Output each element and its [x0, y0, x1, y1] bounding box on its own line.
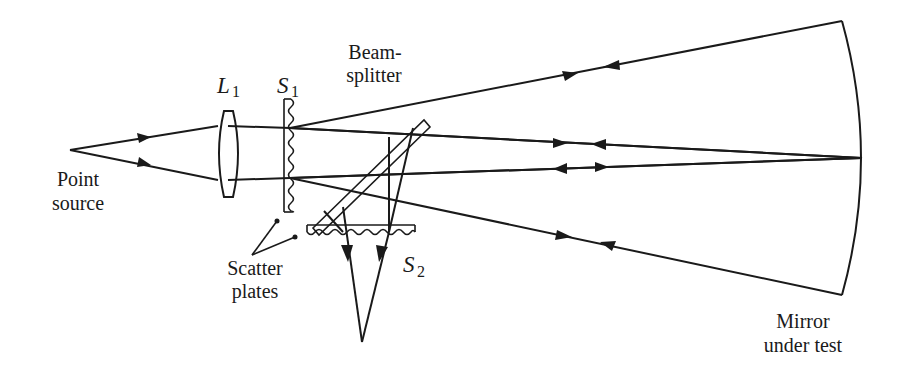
scatter-plate-s1	[284, 99, 294, 212]
ray-segment	[228, 126, 290, 128]
point-source-label: Point	[57, 168, 100, 190]
s2-label-sub: 2	[417, 263, 425, 280]
s2-label: S	[403, 252, 415, 277]
scatter-plates-pointer	[252, 219, 298, 256]
mirror-label: Mirror	[776, 310, 830, 332]
s1-label: S	[277, 73, 289, 98]
interferometer-diagram: Point source L 1 S 1 S 2 Beam- splitter …	[0, 0, 902, 370]
scatter-plate-s2	[307, 225, 415, 235]
lens-label-sub: 1	[232, 83, 240, 100]
point-source-label-2: source	[52, 192, 104, 214]
ray-over-bs	[290, 128, 862, 158]
arrow-icon	[555, 230, 572, 240]
s1-label-sub: 1	[291, 83, 299, 100]
reflected-beams	[324, 128, 413, 342]
arrow-icon	[603, 60, 620, 70]
beamsplitter-label-2: splitter	[346, 64, 402, 87]
beamsplitter-label: Beam-	[348, 41, 401, 63]
scatter-plates-label: Scatter	[227, 257, 283, 279]
lens-label: L	[216, 73, 230, 98]
arrow-icon	[600, 241, 616, 251]
scatter-plates-label-2: plates	[232, 280, 279, 303]
arrow-icon	[137, 133, 151, 143]
lens-L1	[219, 111, 238, 197]
mirror-label-2: under test	[764, 334, 843, 356]
